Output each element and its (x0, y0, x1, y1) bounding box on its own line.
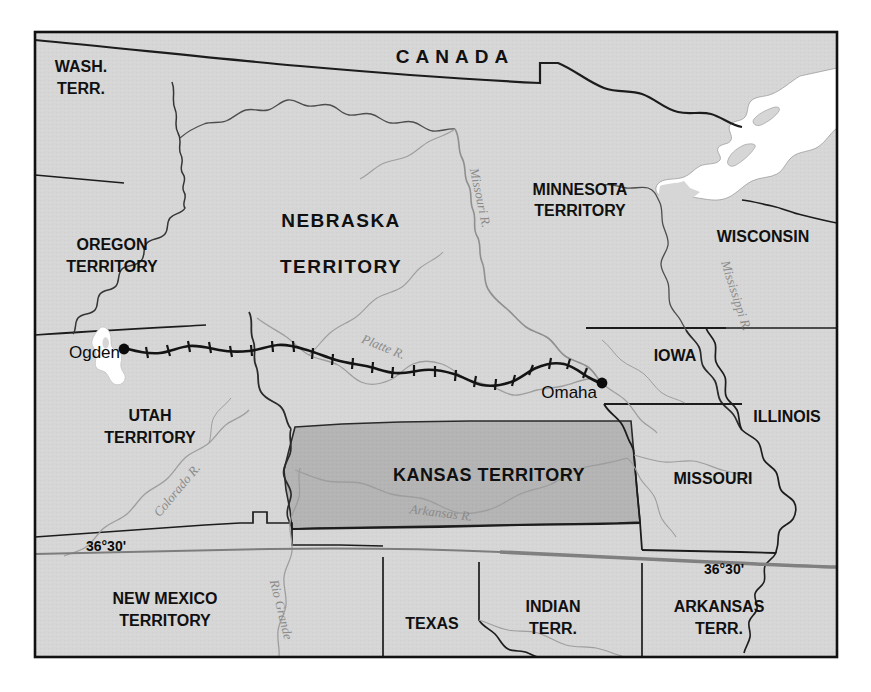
lat-label-36-30-west: 36°30' (86, 538, 126, 554)
region-label-indian-terr: INDIAN (525, 598, 580, 615)
region-label-arkansas-terr: ARKANSAS (674, 598, 765, 615)
region-label-minnesota-terr-line2: TERRITORY (534, 202, 626, 219)
region-label-missouri: MISSOURI (673, 470, 752, 487)
region-label-wash-terr-line2: TERR. (57, 80, 105, 97)
city-dot-ogden[interactable] (119, 344, 130, 355)
region-label-oregon-terr-line2: TERRITORY (66, 258, 158, 275)
region-label-nebraska-terr: NEBRASKA (281, 210, 401, 231)
historical-map: CANADA WASH. TERR. OREGON TERRITORY NEBR… (0, 0, 871, 692)
region-label-new-mexico-terr: NEW MEXICO (113, 590, 218, 607)
map-canvas: CANADA WASH. TERR. OREGON TERRITORY NEBR… (0, 0, 871, 692)
region-label-wash-terr: WASH. (55, 58, 107, 75)
region-label-illinois: ILLINOIS (753, 408, 821, 425)
region-label-kansas-terr: KANSAS TERRITORY (393, 465, 585, 485)
region-label-minnesota-terr: MINNESOTA (533, 181, 628, 198)
region-label-new-mexico-terr-line2: TERRITORY (119, 612, 211, 629)
region-label-oregon-terr: OREGON (76, 236, 147, 253)
city-dot-omaha[interactable] (597, 378, 608, 389)
region-label-utah-terr: UTAH (128, 407, 171, 424)
region-label-indian-terr-line2: TERR. (529, 620, 577, 637)
region-label-nebraska-terr-line2: TERRITORY (280, 256, 402, 277)
region-label-canada: CANADA (396, 46, 514, 67)
region-label-arkansas-terr-line2: TERR. (695, 620, 743, 637)
region-label-wisconsin: WISCONSIN (717, 228, 809, 245)
region-label-utah-terr-line2: TERRITORY (104, 429, 196, 446)
city-label-omaha: Omaha (541, 383, 597, 402)
lat-label-36-30-east: 36°30' (704, 561, 744, 577)
region-label-texas: TEXAS (405, 615, 459, 632)
region-label-iowa: IOWA (654, 347, 697, 364)
city-label-ogden: Ogden (69, 343, 120, 362)
